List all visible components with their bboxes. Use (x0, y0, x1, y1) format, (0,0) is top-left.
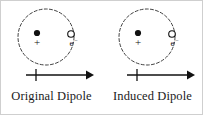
dashed-circle-orbit-icon (119, 9, 175, 65)
right-arrow-head-icon (187, 71, 195, 80)
panel-caption-original: Original Dipole (1, 89, 102, 104)
electron-open-circle-icon (68, 31, 75, 38)
electron-charge-superscript: − (175, 37, 179, 43)
nucleus-charge-label: + (135, 36, 141, 48)
electron-open-circle-icon (169, 31, 176, 38)
dipole-arrow (26, 69, 94, 81)
panel-caption-induced: Induced Dipole (102, 89, 203, 104)
panel-original-dipole: + e − Original Dipole (1, 1, 102, 115)
electron-label: e (171, 38, 175, 48)
dipole-figure: + e − Original Dipole + e − (0, 0, 203, 115)
electron-label: e (70, 38, 74, 48)
nucleus-charge-label: + (34, 36, 40, 48)
panel-induced-dipole: + e − Induced Dipole (102, 1, 203, 115)
right-arrow-head-icon (86, 71, 94, 80)
dipole-arrow (127, 69, 195, 81)
original-dipole-diagram: + e − (1, 1, 102, 89)
electron-charge-superscript: − (74, 37, 78, 43)
dashed-circle-orbit-icon (18, 9, 74, 65)
induced-dipole-diagram: + e − (102, 1, 203, 89)
